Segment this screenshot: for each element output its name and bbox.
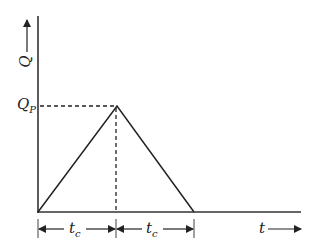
peak-label-main: Q — [17, 95, 29, 113]
tc1-label-sub: c — [75, 228, 81, 239]
y-axis-label: Q — [18, 55, 33, 67]
tc2-label: tc — [146, 221, 158, 239]
peak-label-sub: P — [29, 104, 36, 115]
peak-label: QP — [17, 97, 36, 115]
tc2-label-sub: c — [152, 228, 158, 239]
x-axis-label: t — [259, 221, 265, 236]
diagram-graphics — [0, 0, 315, 250]
tc1-label: tc — [69, 221, 81, 239]
hydrograph-diagram: Q QP tc tc t — [0, 0, 315, 250]
